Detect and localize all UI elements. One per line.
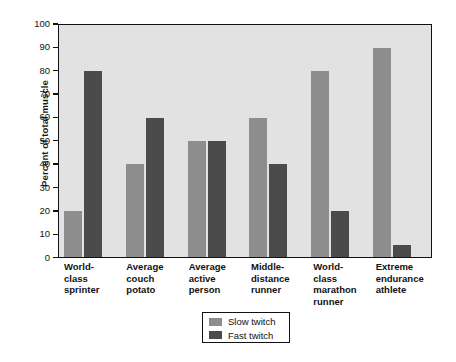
x-axis-label: World-classmarathonrunner bbox=[313, 261, 371, 307]
x-axis-label-line: class bbox=[64, 273, 122, 285]
bar-group bbox=[64, 25, 116, 257]
bars-layer bbox=[59, 25, 431, 257]
x-axis-label-line: distance bbox=[251, 273, 309, 285]
x-axis-label-line: Average bbox=[189, 261, 247, 273]
x-axis-label-line: sprinter bbox=[64, 284, 122, 296]
y-tick-label: 50 bbox=[39, 135, 53, 147]
legend-swatch-icon bbox=[209, 318, 222, 326]
chart-legend: Slow twitchFast twitch bbox=[202, 312, 290, 343]
legend-swatch-icon bbox=[209, 331, 222, 339]
y-tick-70: 70 bbox=[39, 88, 58, 100]
y-tick-10: 10 bbox=[39, 228, 58, 240]
x-axis-label-line: World- bbox=[64, 261, 122, 273]
y-tick-label: 70 bbox=[39, 88, 53, 100]
x-axis-label-line: couch bbox=[126, 273, 184, 285]
x-axis-label: Averageactiveperson bbox=[189, 261, 247, 296]
x-axis-label-line: World- bbox=[313, 261, 371, 273]
legend-item: Fast twitch bbox=[209, 330, 289, 342]
bar-fast-twitch bbox=[269, 164, 287, 257]
y-tick-label: 30 bbox=[39, 182, 53, 194]
bar-slow-twitch bbox=[311, 71, 329, 257]
x-axis-label-line: active bbox=[189, 273, 247, 285]
x-axis-label-line: Middle- bbox=[251, 261, 309, 273]
x-axis-label-line: endurance bbox=[376, 273, 434, 285]
x-axis-label: Middle-distancerunner bbox=[251, 261, 309, 296]
x-axis-label-line: athlete bbox=[376, 284, 434, 296]
bar-fast-twitch bbox=[393, 245, 411, 257]
x-axis-label: Averagecouchpotato bbox=[126, 261, 184, 296]
legend-label: Slow twitch bbox=[228, 316, 276, 327]
y-tick-label: 0 bbox=[45, 252, 53, 264]
bar-group bbox=[126, 25, 178, 257]
y-tick-label: 90 bbox=[39, 41, 53, 53]
x-axis-label-line: Extreme bbox=[376, 261, 434, 273]
y-tick-100: 100 bbox=[34, 18, 58, 30]
y-tick-label: 10 bbox=[39, 228, 53, 240]
plot-area bbox=[58, 24, 432, 258]
y-tick-20: 20 bbox=[39, 205, 58, 217]
y-tick-80: 80 bbox=[39, 65, 58, 77]
y-tick-0: 0 bbox=[45, 252, 58, 264]
bar-fast-twitch bbox=[208, 141, 226, 257]
x-axis-label-line: potato bbox=[126, 284, 184, 296]
bar-group bbox=[249, 25, 301, 257]
legend-label: Fast twitch bbox=[228, 330, 273, 341]
legend-item: Slow twitch bbox=[209, 316, 289, 328]
x-axis-label: Extremeenduranceathlete bbox=[376, 261, 434, 296]
y-tick-30: 30 bbox=[39, 182, 58, 194]
y-tick-label: 20 bbox=[39, 205, 53, 217]
x-axis-labels: World-classsprinterAveragecouchpotatoAve… bbox=[58, 261, 432, 309]
y-tick-60: 60 bbox=[39, 111, 58, 123]
y-tick-50: 50 bbox=[39, 135, 58, 147]
x-axis-label-line: runner bbox=[251, 284, 309, 296]
x-axis-label-line: Average bbox=[126, 261, 184, 273]
bar-group bbox=[188, 25, 240, 257]
bar-slow-twitch bbox=[188, 141, 206, 257]
x-axis-label-line: person bbox=[189, 284, 247, 296]
x-axis-label-line: class bbox=[313, 273, 371, 285]
bar-slow-twitch bbox=[249, 118, 267, 257]
bar-fast-twitch bbox=[331, 211, 349, 257]
y-tick-label: 100 bbox=[34, 18, 53, 30]
bar-chart: Percent of total muscle 0102030405060708… bbox=[0, 0, 456, 362]
y-axis-ticks: 0102030405060708090100 bbox=[0, 0, 58, 282]
bar-fast-twitch bbox=[146, 118, 164, 257]
bar-slow-twitch bbox=[64, 211, 82, 257]
bar-slow-twitch bbox=[373, 48, 391, 257]
bar-fast-twitch bbox=[84, 71, 102, 257]
x-axis-label-line: marathon bbox=[313, 284, 371, 296]
y-tick-90: 90 bbox=[39, 41, 58, 53]
y-tick-40: 40 bbox=[39, 158, 58, 170]
y-tick-label: 60 bbox=[39, 111, 53, 123]
bar-group bbox=[311, 25, 363, 257]
y-tick-label: 80 bbox=[39, 65, 53, 77]
y-tick-label: 40 bbox=[39, 158, 53, 170]
x-axis-label: World-classsprinter bbox=[64, 261, 122, 296]
x-axis-label-line: runner bbox=[313, 296, 371, 308]
bar-slow-twitch bbox=[126, 164, 144, 257]
bar-group bbox=[373, 25, 425, 257]
